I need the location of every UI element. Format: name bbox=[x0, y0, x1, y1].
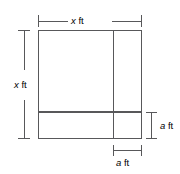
left-dimension-label: x ft bbox=[14, 80, 27, 90]
bottom-dimension-label: a ft bbox=[116, 158, 129, 168]
left-dimension-stem-bottom bbox=[24, 100, 25, 139]
right-dimension-variable: a bbox=[160, 120, 165, 131]
top-dimension-tick-end bbox=[141, 15, 142, 27]
right-dimension-stem bbox=[151, 112, 152, 139]
left-dimension-variable: x bbox=[14, 79, 19, 90]
bottom-dimension-stem bbox=[113, 150, 142, 151]
top-dimension-label: x ft bbox=[71, 16, 84, 26]
vertical-divider-line bbox=[113, 30, 114, 139]
outer-square bbox=[38, 30, 142, 139]
top-dimension-unit: ft bbox=[78, 15, 83, 26]
right-dimension-label: a ft bbox=[160, 121, 173, 131]
top-dimension-variable: x bbox=[71, 15, 76, 26]
top-dimension-tick-start bbox=[38, 15, 39, 27]
horizontal-divider-line bbox=[38, 111, 142, 112]
left-dimension-tick-start bbox=[18, 30, 30, 31]
bottom-dimension-unit: ft bbox=[124, 157, 129, 168]
left-dimension-stem-top bbox=[24, 30, 25, 70]
left-dimension-unit: ft bbox=[21, 79, 26, 90]
right-dimension-tick-start bbox=[146, 112, 157, 113]
bottom-dimension-variable: a bbox=[116, 157, 121, 168]
right-dimension-unit: ft bbox=[168, 120, 173, 131]
geometry-figure: x ft x ft a ft a ft bbox=[0, 0, 180, 174]
left-dimension-tick-end bbox=[18, 138, 30, 139]
right-dimension-tick-end bbox=[146, 138, 157, 139]
bottom-dimension-tick-start bbox=[113, 145, 114, 156]
bottom-dimension-tick-end bbox=[141, 145, 142, 156]
top-dimension-stem-left bbox=[38, 21, 68, 22]
top-dimension-stem-right bbox=[112, 21, 142, 22]
